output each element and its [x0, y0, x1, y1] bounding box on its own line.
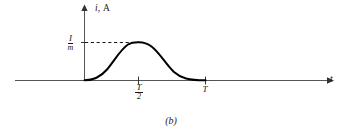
- figure-caption: (b): [0, 115, 342, 126]
- y-axis-arrow-icon: [81, 5, 87, 12]
- fraction-denominator: m: [68, 44, 74, 52]
- x-axis-title: t: [330, 74, 333, 84]
- y-axis-title: i, A: [95, 3, 110, 13]
- current-pulse-curve: [85, 42, 206, 80]
- fraction-half-period: T 2: [135, 83, 142, 101]
- y-axis-unit: A: [103, 3, 110, 13]
- x-tick-label-half-period: T 2: [131, 83, 147, 101]
- y-axis-separator: ,: [98, 3, 101, 13]
- fraction-denominator: 2: [135, 93, 142, 101]
- figure-container: i, A t I m T 2 T (b): [0, 0, 342, 140]
- y-tick-label-peak: I m: [62, 33, 79, 52]
- fraction-peak-amplitude: I m: [68, 34, 74, 52]
- x-tick-label-period: T: [198, 84, 212, 94]
